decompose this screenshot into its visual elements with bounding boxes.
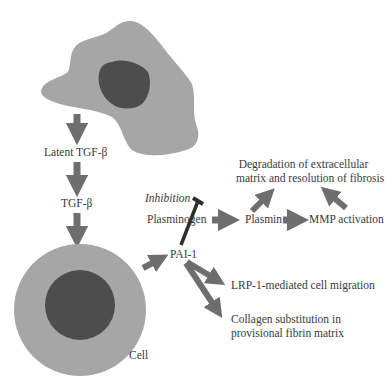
label-collagen: Collagen substitution in provisional fib…: [231, 313, 344, 340]
label-latent-tgfb: Latent TGF-β: [44, 146, 107, 159]
label-pai1: PAI-1: [170, 248, 197, 261]
target-cell: [14, 244, 146, 376]
target-cell-nucleus: [45, 270, 115, 340]
pathway-diagram: Latent TGF-β TGF-β Cell PAI-1 Inhibition…: [0, 0, 392, 383]
label-collagen-line2: provisional fibrin matrix: [231, 327, 344, 340]
label-collagen-line1: Collagen substitution in: [231, 313, 344, 326]
label-inhibition: Inhibition: [145, 192, 190, 205]
arrow-cell-to-pai1: [143, 259, 160, 268]
label-degradation-line2: matrix and resolution of fibrosis: [236, 172, 371, 185]
inhibition-crossbar: [193, 198, 203, 204]
label-plasmin: Plasmin: [245, 213, 282, 226]
arrow-mmp-to-degradation: [328, 193, 346, 208]
arrow-plasmin-to-degradation: [252, 195, 268, 211]
label-mmp-activation: MMP activation: [309, 213, 384, 226]
label-lrp1: LRP-1-mediated cell migration: [231, 279, 375, 292]
label-plasminogen: Plasminogen: [147, 213, 206, 226]
source-cell: [41, 21, 198, 155]
label-degradation-line1: Degradation of extracellular: [236, 158, 371, 171]
label-cell: Cell: [129, 349, 148, 362]
label-tgfb: TGF-β: [61, 197, 92, 210]
label-degradation: Degradation of extracellular matrix and …: [236, 158, 371, 185]
